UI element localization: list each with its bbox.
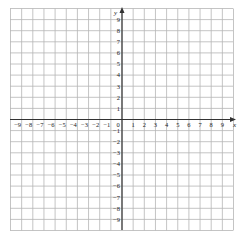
x-tick-label: 1 [132, 121, 135, 128]
x-tick-label: −7 [36, 121, 44, 128]
x-tick-label: 4 [165, 121, 169, 128]
x-axis-label: x [232, 121, 237, 129]
x-tick-label: −4 [70, 121, 78, 128]
y-tick-label: −1 [113, 127, 120, 134]
x-tick-label: 8 [210, 121, 213, 128]
x-tick-label: 2 [143, 121, 146, 128]
x-tick-label: −9 [14, 121, 21, 128]
y-tick-label: 3 [117, 83, 120, 90]
x-tick-label: −6 [48, 121, 56, 128]
coordinate-plane: x y −9−8−7−6−5−4−3−2−10123456789 9876543… [0, 0, 241, 236]
x-tick-label: 6 [187, 121, 191, 128]
x-tick-label: −2 [92, 121, 99, 128]
y-tick-label: 5 [117, 60, 120, 67]
y-tick-label: −4 [113, 160, 121, 167]
x-tick-label: 7 [198, 121, 202, 128]
x-tick-label: −5 [59, 121, 66, 128]
x-tick-label: −3 [81, 121, 88, 128]
y-tick-label: −6 [113, 182, 121, 189]
y-tick-label: −2 [113, 138, 120, 145]
x-tick-label: −1 [103, 121, 110, 128]
y-tick-label: −8 [113, 205, 120, 212]
x-tick-label: −8 [25, 121, 32, 128]
y-tick-label: 9 [117, 16, 120, 23]
y-tick-label: 1 [117, 105, 120, 112]
y-tick-label: 2 [117, 94, 120, 101]
x-tick-label: 5 [176, 121, 179, 128]
x-tick-label: 9 [221, 121, 224, 128]
x-tick-label: 3 [154, 121, 157, 128]
y-tick-label: −5 [113, 171, 120, 178]
y-tick-label: −3 [113, 149, 120, 156]
y-axis-arrow-icon [120, 7, 125, 13]
y-tick-label: −9 [113, 216, 120, 223]
y-tick-label: 8 [117, 27, 120, 34]
y-tick-label: −7 [113, 194, 121, 201]
